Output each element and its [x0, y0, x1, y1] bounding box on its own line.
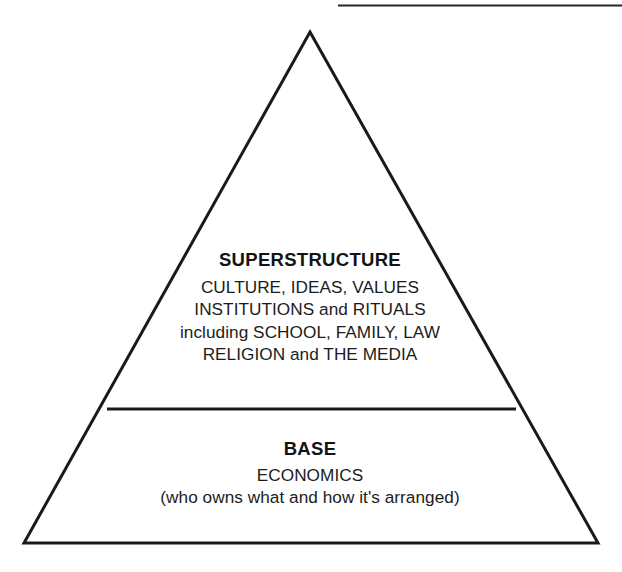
superstructure-line: RELIGION and THE MEDIA	[60, 343, 560, 365]
superstructure-line: CULTURE, IDEAS, VALUES	[60, 276, 560, 298]
diagram-text-layer: SUPERSTRUCTURE CULTURE, IDEAS, VALUES IN…	[0, 0, 622, 572]
base-lines: ECONOMICS (who owns what and how it's ar…	[60, 464, 560, 509]
diagram-canvas: SUPERSTRUCTURE CULTURE, IDEAS, VALUES IN…	[0, 0, 622, 572]
base-line: (who owns what and how it's arranged)	[60, 486, 560, 508]
base-line: ECONOMICS	[60, 464, 560, 486]
base-section: BASE ECONOMICS (who owns what and how it…	[60, 437, 560, 509]
superstructure-section: SUPERSTRUCTURE CULTURE, IDEAS, VALUES IN…	[60, 248, 560, 366]
superstructure-line: INSTITUTIONS and RITUALS	[60, 298, 560, 320]
superstructure-line: including SCHOOL, FAMILY, LAW	[60, 321, 560, 343]
superstructure-lines: CULTURE, IDEAS, VALUES INSTITUTIONS and …	[60, 276, 560, 366]
base-heading: BASE	[60, 437, 560, 460]
superstructure-heading: SUPERSTRUCTURE	[60, 248, 560, 271]
